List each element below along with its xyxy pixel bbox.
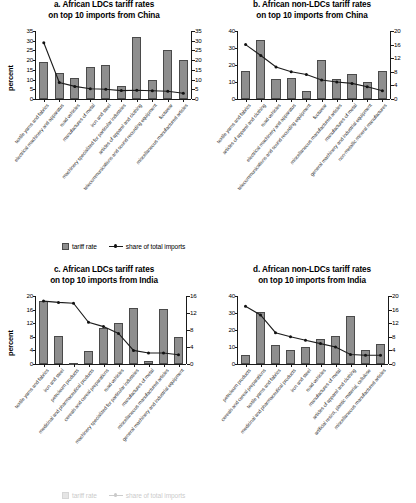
line-marker-icon-bottom [109,492,123,499]
bar-swatch-icon-bottom [62,492,69,499]
legend-label-share-of-imports: share of total imports [126,243,185,250]
chart-panel-c: c. African LDCs tariff rates on top 10 i… [0,265,208,503]
line-series-b [208,25,416,111]
legend-item-share-of-imports: share of total imports [109,243,185,250]
chart-title-b: b. African non-LDCs tariff rates on top … [208,0,416,21]
line-marker-icon [109,243,123,250]
chart-title-c: c. African LDCs tariff rates on top 10 i… [0,265,208,286]
legend-label-tariff-rate: tariff rate [72,243,97,250]
chart-panel-b: b. African non-LDCs tariff rates on top … [208,0,416,240]
legend-item-share-of-imports-bottom: share of total imports [109,492,185,499]
bar-swatch-icon [62,243,69,250]
legend-item-tariff-rate-bottom: tariff rate [62,492,97,499]
chart-panel-a: a. African LDCs tariff rates on top 10 i… [0,0,208,240]
chart-panel-d: d. African non-LDCs tariff rates on top … [208,265,416,503]
chart-title-d: d. African non-LDCs tariff rates on top … [208,265,416,286]
chart-title-a: a. African LDCs tariff rates on top 10 i… [0,0,208,21]
chart-legend: tariff rate share of total imports [62,243,185,250]
line-series-a [0,25,221,111]
legend-item-tariff-rate: tariff rate [62,243,97,250]
figure-page: a. African LDCs tariff rates on top 10 i… [0,0,416,503]
legend-label-tariff-rate-bottom: tariff rate [72,492,97,499]
chart-legend-bottom: tariff rate share of total imports [62,492,185,499]
line-series-d [208,290,416,376]
legend-label-share-of-imports-bottom: share of total imports [126,492,185,499]
line-series-c [0,290,216,376]
